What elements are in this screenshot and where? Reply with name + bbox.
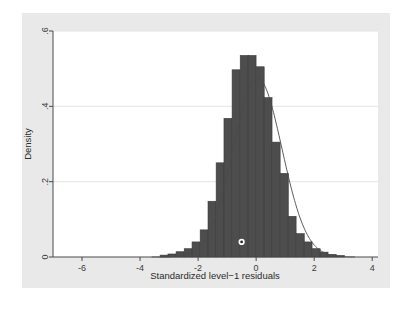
histogram-bar bbox=[296, 234, 304, 257]
histogram-bar bbox=[248, 55, 256, 257]
x-tick-label: -4 bbox=[136, 263, 144, 273]
histogram-bar bbox=[272, 142, 280, 257]
histogram-bar bbox=[224, 118, 232, 257]
histogram-bar bbox=[304, 242, 312, 257]
x-tick-label: 2 bbox=[312, 263, 317, 273]
histogram-bar bbox=[200, 230, 208, 257]
histogram-bar bbox=[240, 55, 248, 257]
y-tick-label: 0 bbox=[40, 254, 50, 259]
y-axis-ticks: 0.2.4.6 bbox=[40, 27, 53, 259]
histogram-bar bbox=[264, 98, 272, 257]
y-axis-title: Density bbox=[22, 128, 33, 160]
y-tick-label: .4 bbox=[40, 103, 50, 111]
data-point-marker bbox=[239, 239, 245, 245]
histogram-bar bbox=[288, 216, 296, 257]
y-tick-label: .6 bbox=[40, 27, 50, 35]
histogram-bar bbox=[256, 67, 264, 257]
histogram-chart: -6-4-2024 0.2.4.6 Standardized level−1 r… bbox=[0, 0, 408, 313]
x-tick-label: -6 bbox=[78, 263, 86, 273]
x-tick-label: 4 bbox=[370, 263, 375, 273]
histogram-bar bbox=[280, 173, 288, 257]
x-axis-title: Standardized level−1 residuals bbox=[150, 270, 280, 281]
marker-center-dot bbox=[240, 241, 243, 244]
histogram-bar bbox=[208, 201, 216, 257]
figure-canvas: -6-4-2024 0.2.4.6 Standardized level−1 r… bbox=[0, 0, 408, 313]
y-tick-label: .2 bbox=[40, 178, 50, 186]
histogram-bar bbox=[232, 70, 240, 257]
